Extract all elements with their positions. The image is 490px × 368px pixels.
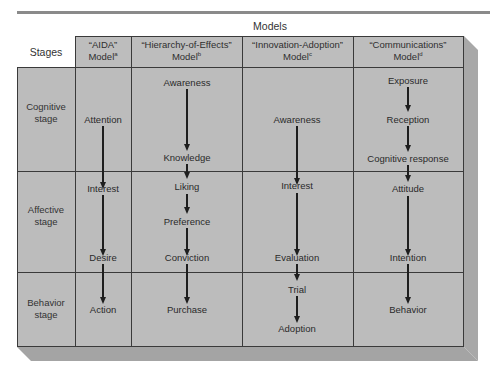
column-title: “Innovation-Adoption” <box>242 39 353 51</box>
ia-node-adoption: Adoption <box>278 323 316 334</box>
stage-label-line: Behavior <box>17 297 75 309</box>
column-subtitle: Modelb <box>131 51 242 63</box>
ia-node-trial: Trial <box>288 284 306 295</box>
models-label: Models <box>240 20 300 32</box>
comm-node-reception: Reception <box>387 114 430 125</box>
hoe-node-preference: Preference <box>164 216 210 227</box>
grid-line <box>75 36 464 37</box>
stage-label-cognitive: Cognitive stage <box>17 101 75 125</box>
ia-node-awareness: Awareness <box>274 114 321 125</box>
grid-line <box>17 171 464 172</box>
grid-line <box>353 36 354 347</box>
stage-label-line: stage <box>17 113 75 125</box>
column-header-aida: “AIDA” Modela <box>75 39 131 63</box>
stage-label-line: stage <box>17 216 75 228</box>
column-title: “Communications” <box>353 39 463 51</box>
hoe-node-liking: Liking <box>175 181 200 192</box>
grid-line <box>131 36 132 347</box>
comm-node-attitude: Attitude <box>392 183 424 194</box>
aida-node-action: Action <box>90 304 116 315</box>
stage-label-behavior: Behavior stage <box>17 297 75 321</box>
aida-node-interest: Interest <box>87 183 119 194</box>
hoe-node-awareness: Awareness <box>164 77 211 88</box>
stage-label-line: Cognitive <box>17 101 75 113</box>
grid-line <box>75 36 76 347</box>
frame-depth-bottom <box>17 347 478 361</box>
ia-node-evaluation: Evaluation <box>275 252 319 263</box>
ia-node-interest: Interest <box>281 180 313 191</box>
grid-line <box>242 36 243 347</box>
grid-line <box>463 36 464 347</box>
top-rule <box>17 11 490 14</box>
grid-line <box>17 272 464 273</box>
stage-label-line: Affective <box>17 204 75 216</box>
column-title: “AIDA” <box>75 39 131 51</box>
column-subtitle: Modelc <box>242 51 353 63</box>
hoe-node-knowledge: Knowledge <box>163 152 210 163</box>
grid-line <box>17 346 464 347</box>
column-title: “Hierarchy-of-Effects” <box>131 39 242 51</box>
stage-label-affective: Affective stage <box>17 204 75 228</box>
column-subtitle: Modela <box>75 51 131 63</box>
aida-node-attention: Attention <box>84 114 122 125</box>
models-table: “AIDA” Modela “Hierarchy-of-Effects” Mod… <box>17 36 464 347</box>
hoe-node-conviction: Conviction <box>165 252 209 263</box>
grid-line <box>17 67 464 68</box>
comm-node-intention: Intention <box>390 252 426 263</box>
comm-node-exposure: Exposure <box>388 75 428 86</box>
comm-node-behavior: Behavior <box>389 304 427 315</box>
aida-node-desire: Desire <box>89 252 116 263</box>
column-header-communications: “Communications” Modeld <box>353 39 463 63</box>
column-header-hierarchy-of-effects: “Hierarchy-of-Effects” Modelb <box>131 39 242 63</box>
stage-label-line: stage <box>17 309 75 321</box>
column-subtitle: Modeld <box>353 51 463 63</box>
hoe-node-purchase: Purchase <box>167 304 207 315</box>
comm-node-cognitive-response: Cognitive response <box>367 153 448 164</box>
frame-depth-right <box>464 36 478 361</box>
column-header-innovation-adoption: “Innovation-Adoption” Modelc <box>242 39 353 63</box>
